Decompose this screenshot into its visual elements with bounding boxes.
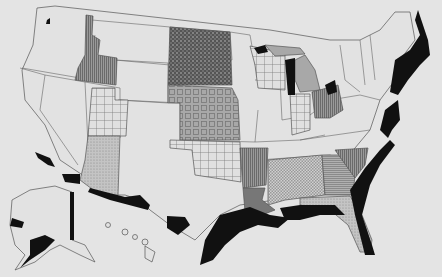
- state-indiana: [290, 94, 310, 135]
- state-arkansas: [240, 148, 268, 188]
- state-dakotas: [168, 27, 232, 85]
- alaska: [10, 186, 95, 270]
- us-map: [0, 0, 442, 277]
- hawaii: [106, 223, 156, 263]
